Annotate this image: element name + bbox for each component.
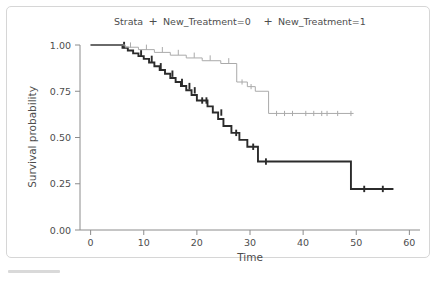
y-tick-label-3: 0.75 [50, 86, 71, 97]
x-tick-label-5: 50 [350, 237, 362, 248]
y-tick-label-4: 1.00 [50, 40, 71, 51]
x-tick-label-3: 30 [244, 237, 256, 248]
x-tick-label-2: 20 [191, 237, 203, 248]
y-tick-label-2: 0.50 [50, 132, 71, 143]
y-tick-label-0: 0.00 [50, 225, 71, 236]
series-0 [91, 42, 394, 192]
legend-label-1: New_Treatment=1 [278, 16, 366, 27]
legend-item-0[interactable]: + New_Treatment=0 [148, 15, 250, 28]
legend-label-0: New_Treatment=0 [163, 16, 251, 27]
kaplan-meier-chart: Strata + New_Treatment=0 + New_Treatment… [0, 0, 439, 281]
x-tick-label-4: 40 [297, 237, 309, 248]
legend: Strata + New_Treatment=0 + New_Treatment… [114, 15, 366, 28]
y-axis-ticks: 0.000.250.500.751.00 [50, 40, 80, 236]
x-tick-label-1: 10 [138, 237, 150, 248]
x-axis: 0102030405060 Time [80, 230, 420, 263]
survival-plot-figure: Strata + New_Treatment=0 + New_Treatment… [0, 0, 439, 281]
series-1 [91, 42, 354, 116]
x-axis-ticks: 0102030405060 [88, 230, 416, 248]
x-axis-title: Time [236, 251, 263, 263]
y-tick-label-1: 0.25 [50, 178, 71, 189]
x-tick-label-6: 60 [403, 237, 415, 248]
legend-item-1[interactable]: + New_Treatment=1 [263, 15, 365, 28]
series-group [91, 42, 394, 192]
legend-marker-1: + [263, 15, 272, 28]
legend-title: Strata [114, 16, 143, 27]
survival-step-line-1 [91, 45, 354, 113]
y-axis: 0.000.250.500.751.00 Survival probabilit… [26, 40, 80, 236]
x-tick-label-0: 0 [88, 237, 94, 248]
survival-step-line-0 [91, 45, 394, 189]
y-axis-title: Survival probability [26, 86, 38, 188]
legend-marker-0: + [148, 15, 157, 28]
